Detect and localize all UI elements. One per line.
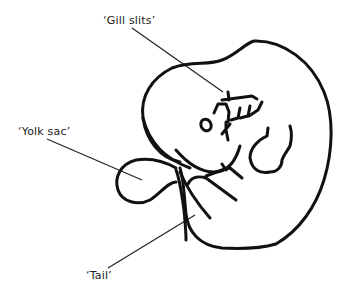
yolk-sac-outline — [117, 159, 176, 202]
embryo-body-outline — [143, 41, 332, 248]
embryo-drawing — [0, 0, 348, 294]
gill-slits-label: ‘Gill slits’ — [103, 14, 155, 27]
yolk-sac-label: ‘Yolk sac’ — [18, 125, 70, 138]
gill-slit-top — [222, 92, 257, 100]
gill-slits-leader-line — [132, 28, 223, 92]
embryo-diagram: ‘Gill slits’ ‘Yolk sac’ ‘Tail’ — [0, 0, 348, 294]
tail-leader-line — [108, 215, 195, 268]
eye-circle — [199, 117, 213, 132]
gill-slit-lower — [222, 122, 230, 140]
gill-slit-arches — [214, 102, 262, 122]
yolk-sac-leader-line — [47, 139, 142, 180]
limb-bud — [250, 126, 292, 172]
tail-label: ‘Tail’ — [86, 269, 112, 282]
